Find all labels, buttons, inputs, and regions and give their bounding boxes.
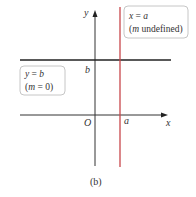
vertical-line-equation: x = a — [128, 11, 148, 21]
y-axis-arrow-icon — [93, 10, 98, 17]
y-intercept-label-b: b — [85, 64, 90, 75]
x-intercept-label-a: a — [124, 115, 129, 126]
origin-label: O — [84, 117, 91, 128]
figure-caption: (b) — [90, 176, 102, 188]
y-axis-label: y — [83, 7, 89, 18]
x-axis-label: x — [165, 117, 171, 128]
horizontal-line-slope-note: (m = 0) — [25, 82, 53, 93]
line-diagram: x = a (m undefined) y = b (m = 0) y x O … — [0, 0, 196, 197]
vertical-line-slope-note: (m undefined) — [129, 24, 183, 35]
horizontal-line-equation: y = b — [24, 69, 44, 79]
